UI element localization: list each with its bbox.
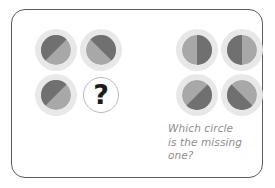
circle-disc-vertical-dark-left xyxy=(227,35,257,65)
circle-disc-diagonal-lower-right xyxy=(182,80,212,110)
prompt-line-1: Which circle xyxy=(168,122,268,136)
circle-disc-diagonal-upper-left xyxy=(41,80,71,110)
prompt-line-2: is the missing xyxy=(168,136,268,150)
prompt-line-3: one? xyxy=(168,149,268,163)
circle-left-top-right[interactable] xyxy=(80,29,122,71)
circle-disc-vertical-dark-right xyxy=(182,35,212,65)
circle-disc-diagonal-lower-left xyxy=(227,80,257,110)
question-mark-icon: ? xyxy=(80,74,122,116)
circle-disc-diagonal-upper-left xyxy=(41,35,71,65)
circle-right-bottom-left[interactable] xyxy=(176,74,218,116)
circle-left-top-left[interactable] xyxy=(35,29,77,71)
missing-circle-slot[interactable]: ? xyxy=(80,74,122,116)
circle-right-top-right[interactable] xyxy=(221,29,263,71)
circle-right-top-left[interactable] xyxy=(176,29,218,71)
circle-disc-diagonal-upper-right xyxy=(86,35,116,65)
circle-left-bottom-left[interactable] xyxy=(35,74,77,116)
puzzle-card: ? xyxy=(11,9,263,178)
circle-right-bottom-right[interactable] xyxy=(221,74,263,116)
puzzle-prompt: Which circle is the missing one? xyxy=(168,122,268,163)
